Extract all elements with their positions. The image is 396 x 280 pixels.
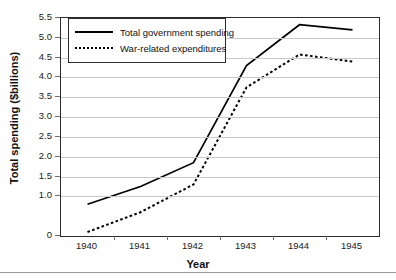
y-axis-tick: [55, 76, 60, 77]
y-axis-tick-label: 1.5: [26, 171, 52, 181]
y-axis-tick: [55, 176, 60, 177]
gridline: [61, 117, 379, 118]
y-axis-tick: [55, 96, 60, 97]
x-axis-tick-label: 1945: [322, 240, 382, 251]
y-axis-tick-label: 4.5: [26, 52, 52, 62]
gridline: [61, 177, 379, 178]
x-axis-tick-label: 1943: [216, 240, 276, 251]
legend-label: War-related expenditures: [120, 43, 226, 54]
y-axis-tick-label: 3.0: [26, 111, 52, 121]
chart-legend: Total government spending War-related ex…: [68, 18, 226, 63]
legend-swatch-solid-line-icon: [75, 27, 113, 37]
x-axis-title: Year: [0, 258, 396, 270]
gridline: [61, 97, 379, 98]
legend-item-war-related-expenditures: War-related expenditures: [75, 40, 219, 56]
y-axis-tick: [55, 37, 60, 38]
y-axis-tick-label: 1.0: [26, 191, 52, 201]
legend-swatch-dotted-line-icon: [75, 43, 113, 53]
gridline: [61, 77, 379, 78]
x-axis-tick-label: 1941: [110, 240, 170, 251]
y-axis-tick: [55, 17, 60, 18]
y-axis-tick-label: 5.0: [26, 32, 52, 42]
y-axis-tick: [55, 57, 60, 58]
y-axis-tick-label: 4.0: [26, 72, 52, 82]
x-axis-tick-label: 1944: [269, 240, 329, 251]
series-line: [88, 54, 353, 232]
y-axis-title: Total spending ($billions): [8, 18, 20, 218]
legend-item-total-government-spending: Total government spending: [75, 24, 219, 40]
y-axis-tick: [55, 195, 60, 196]
x-axis-tick-label: 1940: [57, 240, 117, 251]
y-axis-tick-label: 0: [26, 230, 52, 240]
y-axis-tick: [55, 156, 60, 157]
y-axis-tick-label: 2.5: [26, 131, 52, 141]
gridline: [61, 157, 379, 158]
gridline: [61, 196, 379, 197]
bottom-divider: [0, 272, 396, 273]
legend-label: Total government spending: [120, 27, 234, 38]
y-axis-tick-label: 2.0: [26, 151, 52, 161]
x-axis-tick-label: 1942: [163, 240, 223, 251]
chart-figure: Total spending ($billions) Total governm…: [0, 0, 396, 280]
gridline: [61, 137, 379, 138]
y-axis-tick-label: 3.5: [26, 92, 52, 102]
y-axis-tick: [55, 235, 60, 236]
y-axis-tick-label: 5.5: [26, 12, 52, 22]
y-axis-tick: [55, 116, 60, 117]
y-axis-tick: [55, 136, 60, 137]
